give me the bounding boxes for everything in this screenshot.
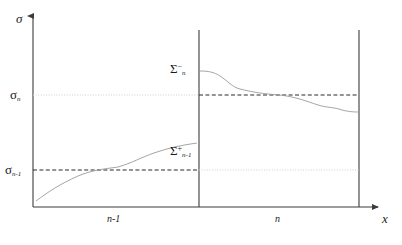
y-tick-sigma-n: σn [10,88,21,103]
x-tick-n-minus-1: n-1 [107,214,120,224]
diagram-svg [0,0,402,245]
y-tick-sigma-n-sub: n [17,95,21,103]
figure-canvas: σ x σn σn-1 n-1 n Σ−n Σ+n-1 [0,0,402,245]
sigma-lower-base: Σ [170,143,178,158]
y-tick-sigma-n-base: σ [10,87,17,102]
y-tick-sigma-n-1-sub: n-1 [12,170,21,178]
segment-n-curve [200,71,359,112]
y-axis-label: σ [16,12,22,25]
y-tick-sigma-n-1: σn-1 [5,163,21,178]
sigma-upper-annotation: Σ−n [170,62,186,77]
y-tick-sigma-n-1-base: σ [5,162,12,177]
x-axis-label: x [382,212,388,225]
sigma-upper-base: Σ [170,61,178,76]
x-tick-n: n [275,214,280,224]
sigma-lower-sub: n-1 [182,151,191,159]
sigma-lower-annotation: Σ+n-1 [170,144,191,159]
sigma-upper-sub: n [182,69,186,77]
